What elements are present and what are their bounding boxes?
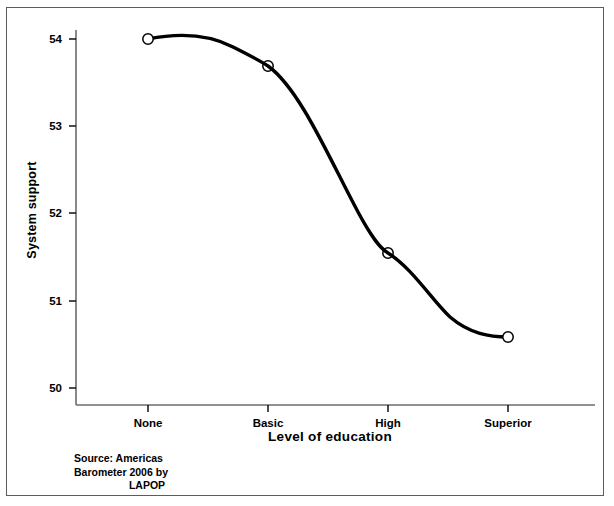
y-tick-marks xyxy=(69,39,76,388)
data-point-markers xyxy=(143,34,513,342)
source-note: Source: Americas Barometer 2006 by LAPOP xyxy=(52,452,232,493)
x-tick-label-superior: Superior xyxy=(448,417,568,429)
x-tick-marks xyxy=(148,405,508,412)
data-point-none xyxy=(143,34,153,44)
source-note-line-3: LAPOP xyxy=(52,479,232,493)
data-line-system-support xyxy=(148,35,508,337)
y-tick-label-50: 50 xyxy=(22,382,62,394)
chart-screenshot: 54 53 52 51 50 None Basic High Superior … xyxy=(0,0,614,506)
x-tick-label-basic: Basic xyxy=(208,417,328,429)
source-note-line-1: Source: Americas xyxy=(52,452,232,466)
x-axis-title: Level of education xyxy=(180,429,480,444)
x-tick-label-high: High xyxy=(328,417,448,429)
y-tick-label-54: 54 xyxy=(22,33,62,45)
y-axis-title: System support xyxy=(22,90,42,330)
chart-plot-area: 54 53 52 51 50 None Basic High Superior … xyxy=(0,0,614,506)
data-point-superior xyxy=(503,332,513,342)
x-tick-label-none: None xyxy=(88,417,208,429)
source-note-line-2: Barometer 2006 by xyxy=(52,466,232,480)
